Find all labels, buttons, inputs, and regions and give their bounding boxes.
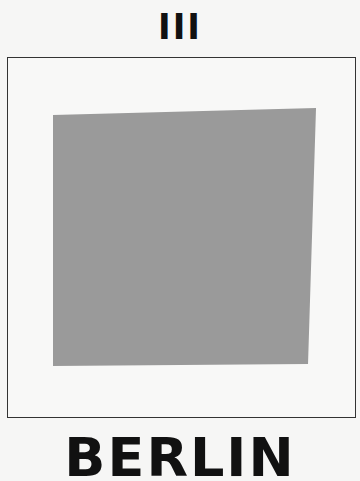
city-title: BERLIN — [0, 428, 360, 481]
gray-quadrilateral — [53, 108, 316, 366]
